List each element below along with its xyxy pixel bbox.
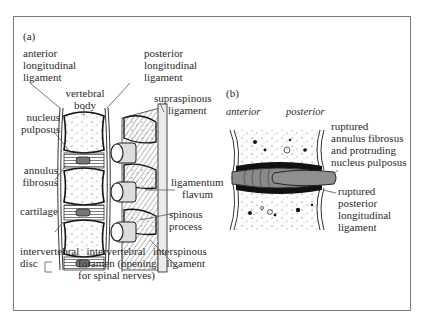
intervertebral-disc-1 xyxy=(64,153,104,168)
label-nucleus-pulposus: nucleus pulposus xyxy=(20,111,60,135)
label-intervertebral-foramen: intervertebral foramen (opening for spin… xyxy=(78,245,154,281)
label-interspinous-ligament: interspinous ligament xyxy=(153,245,205,269)
pedicle xyxy=(111,143,136,163)
vertebral-body-1 xyxy=(64,112,104,153)
label-ruptured-posterior-ligament: ruptured posterior longitudinal ligament xyxy=(338,185,391,233)
label-vertebral-body: vertebral body xyxy=(62,87,108,111)
label-anterior-orientation: anterior xyxy=(226,106,260,118)
panel-a-label: (a) xyxy=(23,30,35,42)
label-cartilage: cartilage xyxy=(20,205,58,217)
panel-b-label: (b) xyxy=(226,87,239,99)
label-anterior-longitudinal-ligament: anterior longitudinal ligament xyxy=(23,47,76,83)
label-posterior-orientation: posterior xyxy=(286,106,325,118)
label-supraspinous-ligament: supraspinous ligament xyxy=(154,92,211,116)
pedicle xyxy=(111,182,136,202)
herniated-disc xyxy=(230,130,336,230)
label-ruptured-annulus-fibrosus: ruptured annulus fibrosus and protruding… xyxy=(331,120,406,168)
label-intervertebral-disc: intervertebral disc xyxy=(20,245,79,269)
pedicle xyxy=(111,222,136,242)
label-posterior-longitudinal-ligament: posterior longitudinal ligament xyxy=(144,47,197,83)
vertebral-body-2 xyxy=(64,168,104,205)
label-ligamentum-flavum: ligamentum flavum xyxy=(171,176,224,200)
intervertebral-disc-2 xyxy=(64,205,104,220)
label-annulus-fibrosus: annulus fibrosus xyxy=(20,164,58,188)
label-spinous-process: spinous process xyxy=(169,208,203,232)
